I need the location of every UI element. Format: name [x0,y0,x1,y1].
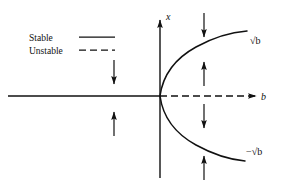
upper-branch-label: √b [250,35,261,46]
x-axis-label: x [165,11,171,22]
lower-branch-label: −√b [246,146,262,157]
diagram-canvas: Stable Unstable x b √b −√b [0,0,281,188]
legend-item-unstable-label: Unstable [29,46,63,56]
legend-item-stable-label: Stable [29,33,53,43]
lower-branch-curve [160,96,245,161]
legend: Stable Unstable [29,33,115,56]
b-axis-label: b [261,91,266,102]
